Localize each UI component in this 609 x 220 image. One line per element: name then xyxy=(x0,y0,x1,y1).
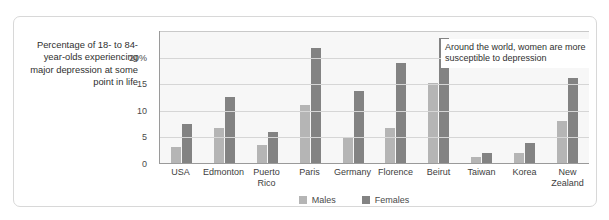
y-axis: 05101520% xyxy=(119,31,147,164)
y-axis-tick-0: 0 xyxy=(142,159,147,169)
x-axis-labels: USAEdmontonPuerto RicoParisGermanyFloren… xyxy=(159,167,589,188)
bar-males-usa xyxy=(171,147,181,163)
y-axis-tick-10: 10 xyxy=(137,106,147,116)
legend-item-males[interactable]: Males xyxy=(299,195,336,205)
bar-females-edmonton xyxy=(225,97,235,164)
y-axis-tick-5: 5 xyxy=(142,132,147,142)
bar-group xyxy=(289,31,332,163)
y-axis-tick-20: 20% xyxy=(129,53,147,63)
x-axis-label: USA xyxy=(159,167,202,188)
bar-males-korea xyxy=(514,153,524,163)
legend-swatch-females xyxy=(362,196,370,204)
gridline xyxy=(160,111,589,112)
legend-swatch-males xyxy=(299,196,307,204)
legend-label: Males xyxy=(312,195,336,205)
x-axis-label: Taiwan xyxy=(460,167,503,188)
bar-males-germany xyxy=(343,137,353,163)
bar-females-paris xyxy=(311,48,321,163)
bar-females-florence xyxy=(396,63,406,163)
x-axis-label: Paris xyxy=(288,167,331,188)
legend-label: Females xyxy=(375,195,410,205)
x-axis-label: Germany xyxy=(331,167,374,188)
bar-group xyxy=(160,31,203,163)
bar-females-korea xyxy=(525,143,535,163)
bar-females-taiwan xyxy=(482,153,492,163)
x-axis-line xyxy=(160,163,589,164)
x-axis-label: Edmonton xyxy=(202,167,245,188)
x-axis-label: New Zealand xyxy=(546,167,589,188)
bar-females-germany xyxy=(354,91,364,163)
bar-males-florence xyxy=(385,128,395,163)
bar-females-new-zealand xyxy=(568,78,578,163)
x-axis-label: Puerto Rico xyxy=(245,167,288,188)
bar-males-edmonton xyxy=(214,128,224,163)
legend-item-females[interactable]: Females xyxy=(362,195,410,205)
x-axis-label: Beirut xyxy=(417,167,460,188)
gridline xyxy=(160,137,589,138)
bar-group xyxy=(375,31,418,163)
chart-legend: MalesFemales xyxy=(119,195,589,205)
bar-males-beirut xyxy=(428,83,438,163)
x-axis-label: Florence xyxy=(374,167,417,188)
y-axis-tick-15: 15 xyxy=(137,79,147,89)
bar-group xyxy=(246,31,289,163)
bar-females-usa xyxy=(182,124,192,163)
x-axis-label: Korea xyxy=(503,167,546,188)
chart-card: Percentage of 18- to 84-year-olds experi… xyxy=(13,16,597,207)
bar-females-puerto-rico xyxy=(268,132,278,163)
bar-chart: 05101520% USAEdmontonPuerto RicoParisGer… xyxy=(119,31,589,191)
chart-annotation: Around the world, women are more suscept… xyxy=(441,39,593,68)
bar-group xyxy=(332,31,375,163)
bar-group xyxy=(203,31,246,163)
bar-males-puerto-rico xyxy=(257,145,267,163)
bar-males-paris xyxy=(300,105,310,163)
bar-males-new-zealand xyxy=(557,121,567,163)
gridline xyxy=(160,84,589,85)
